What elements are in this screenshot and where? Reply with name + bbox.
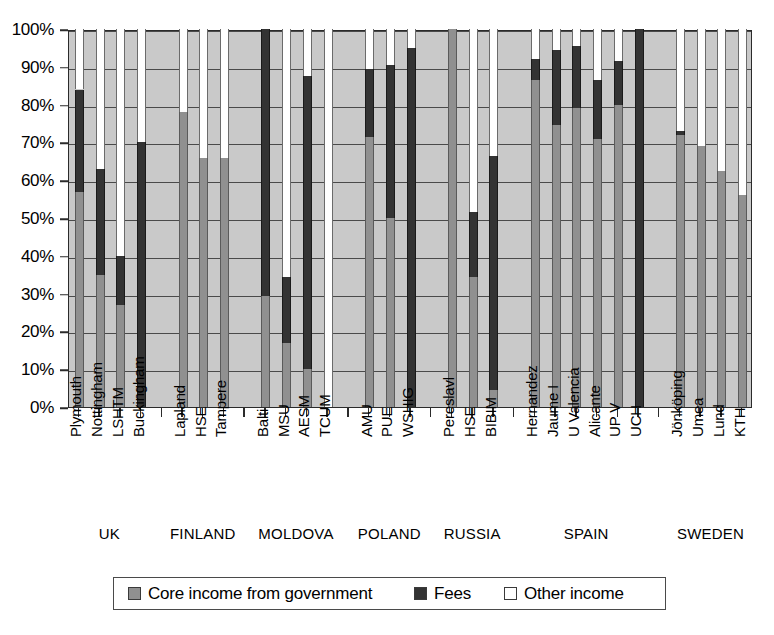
fees-segment [635,29,644,407]
y-tick-mark [60,294,68,296]
x-tick-mark [471,408,473,417]
bar-pue [386,29,395,407]
bar-lshtm [116,29,125,407]
fees-segment [572,46,581,108]
x-tick-mark [223,408,225,417]
x-tick-mark [161,408,163,417]
core-segment [282,343,291,407]
fees-segment [531,59,540,80]
bar-u-valencia [572,29,581,407]
other-segment [593,29,602,80]
fees-segment [676,131,685,135]
bar-lapland [179,29,188,407]
x-tick-mark [534,408,536,417]
bar-tampere [220,29,229,407]
other-segment [552,29,561,50]
fees-segment [116,256,125,305]
other-segment [365,29,374,69]
x-tick-mark [451,408,453,417]
fees-segment [489,156,498,390]
x-tick-mark [98,408,100,417]
core-segment [697,146,706,407]
bar-amu [365,29,374,407]
x-tick-mark [306,408,308,417]
x-tick-mark [264,408,266,417]
other-segment [303,29,312,76]
fees-segment [303,76,312,369]
legend-item-fees[interactable]: Fees [414,584,471,604]
other-segment [697,29,706,146]
core-segment [717,171,726,407]
core-segment [386,218,395,407]
fees-segment [282,277,291,343]
bar-buckingham [137,29,146,407]
legend-item-core[interactable]: Core income from government [128,584,372,604]
other-segment [469,29,478,212]
core-segment [75,192,84,407]
other-segment [407,29,416,48]
other-segment [199,29,208,158]
x-tick-mark [430,408,432,417]
x-tick-mark [243,408,245,417]
y-axis: 0%10%20%30%40%50%60%70%80%90%100% [0,0,64,438]
y-tick-mark [60,29,68,31]
x-tick-mark [741,408,743,417]
y-tick-mark [60,67,68,69]
other-segment [96,29,105,169]
legend-swatch-core-icon [128,587,141,600]
x-tick-mark [554,408,556,417]
y-tick-mark [60,256,68,258]
core-segment [116,305,125,407]
legend-label: Fees [434,584,471,604]
x-tick-mark [658,408,660,417]
core-segment [261,296,270,408]
y-tick-label: 30% [21,285,54,305]
other-segment [282,29,291,277]
bar-uch [635,29,644,407]
y-tick-label: 80% [21,96,54,116]
y-tick-mark [60,369,68,371]
x-tick-mark [492,408,494,417]
core-segment [179,112,188,407]
core-segment [448,29,457,407]
bar-tcum [324,29,333,407]
y-tick-mark [60,180,68,182]
core-segment [199,158,208,407]
other-segment [220,29,229,158]
bar-up-v [614,29,623,407]
x-tick-mark [409,408,411,417]
bar-wshig [407,29,416,407]
bar-alicante [593,29,602,407]
y-tick-label: 20% [21,322,54,342]
x-group-label: SWEDEN [677,525,744,542]
fees-segment [75,90,84,192]
legend-swatch-other-icon [504,587,517,600]
bar-lund [717,29,726,407]
other-segment [137,29,146,142]
bar-hse [199,29,208,407]
y-tick-label: 70% [21,133,54,153]
bar-umea [697,29,706,407]
bar-balti [261,29,270,407]
bar-plymouth [75,29,84,407]
fees-segment [386,65,395,218]
x-tick-mark [140,408,142,417]
bar-bibim [489,29,498,407]
fees-segment [593,80,602,139]
x-group-label: MOLDOVA [258,525,333,542]
other-segment [717,29,726,171]
legend-item-other[interactable]: Other income [504,584,624,604]
x-tick-mark [347,408,349,417]
y-tick-label: 50% [21,209,54,229]
core-segment [303,369,312,407]
x-tick-mark [181,408,183,417]
core-segment [676,135,685,407]
x-tick-mark [575,408,577,417]
x-tick-mark [637,408,639,417]
y-tick-mark [60,218,68,220]
x-tick-mark [78,408,80,417]
core-segment [738,195,747,407]
x-axis [68,408,752,422]
fees-segment [614,61,623,104]
x-tick-mark [285,408,287,417]
